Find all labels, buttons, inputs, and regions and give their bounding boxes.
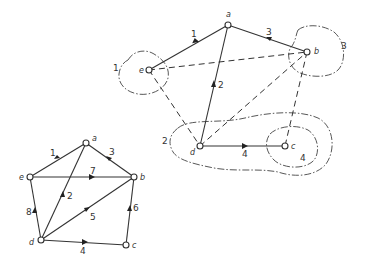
small-edge-3-label: 3 — [109, 147, 115, 157]
small-graph: 1 2 3 4 5 6 7 8 a b c d e — [19, 134, 145, 256]
large-node-b — [304, 49, 310, 55]
dashed-edge-d-b — [200, 52, 307, 146]
cluster-1-label: 1 — [113, 63, 119, 73]
small-edge-2-label: 2 — [67, 191, 73, 201]
small-node-b-label: b — [140, 173, 145, 182]
large-node-b-label: b — [314, 47, 319, 56]
small-edge-6-label: 6 — [133, 203, 139, 213]
small-node-d-label: d — [29, 238, 35, 247]
large-node-a — [225, 22, 231, 28]
small-edge-2-d-a — [41, 143, 86, 240]
large-node-d — [197, 143, 203, 149]
cluster-3-label: 3 — [341, 41, 347, 51]
edge-1-label: 1 — [191, 29, 197, 39]
small-edge-8-label: 8 — [26, 207, 32, 217]
small-node-d — [38, 237, 44, 243]
edge-3-label: 3 — [266, 27, 272, 37]
cluster-2-outline — [170, 113, 332, 176]
cluster-4-label: 4 — [300, 153, 306, 163]
small-node-a-label: a — [92, 134, 97, 143]
edge-3-arrow-icon — [266, 37, 272, 41]
large-graph: 1 3 2 4 1 2 3 4 a b c d — [113, 10, 347, 175]
large-node-d-label: d — [190, 148, 196, 157]
small-node-e-label: e — [19, 173, 24, 182]
dashed-edge-e-d — [149, 70, 200, 146]
small-edge-2-arrow-icon — [60, 191, 65, 197]
dashed-edge-b-c — [285, 52, 307, 146]
large-node-c-label: c — [291, 142, 296, 151]
figure-canvas: 1 3 2 4 1 2 3 4 a b c d — [0, 0, 366, 266]
small-edge-4-arrow-icon — [82, 239, 88, 245]
small-edge-6-arrow-icon — [127, 205, 132, 211]
small-node-c — [123, 242, 129, 248]
edge-1-e-a — [149, 25, 228, 70]
small-edge-1-label: 1 — [50, 148, 56, 158]
small-node-b — [131, 174, 137, 180]
large-node-c — [282, 143, 288, 149]
cluster-2-label: 2 — [162, 136, 168, 146]
small-node-c-label: c — [132, 241, 137, 250]
small-edge-5-label: 5 — [90, 212, 96, 222]
edge-2-label: 2 — [218, 80, 224, 90]
large-node-e — [146, 67, 152, 73]
large-node-e-label: e — [139, 66, 144, 75]
small-edge-7-label: 7 — [90, 166, 96, 176]
large-node-a-label: a — [226, 10, 231, 19]
edge-4-label: 4 — [242, 149, 248, 159]
dashed-edge-e-b — [149, 52, 307, 70]
small-node-e — [27, 174, 33, 180]
small-node-a — [83, 140, 89, 146]
small-edge-4-label: 4 — [80, 246, 86, 256]
